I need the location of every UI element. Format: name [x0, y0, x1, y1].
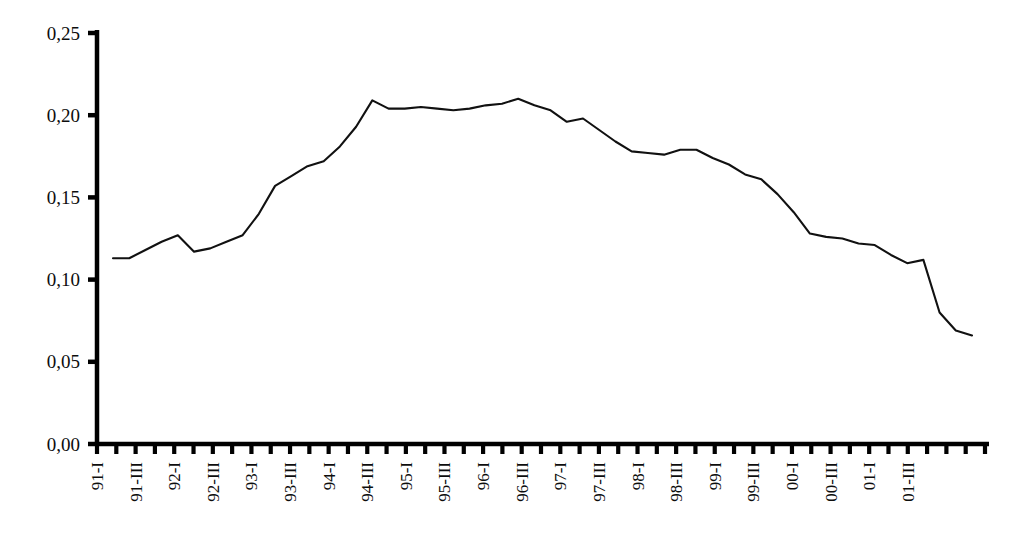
- y-tick-label: 0,05: [47, 351, 80, 372]
- x-tick-label-group: 91-I91-III92-I92-III93-I93-III94-I94-III…: [88, 462, 918, 502]
- chart-container: 0,000,050,100,150,200,25 91-I91-III92-I9…: [0, 0, 1026, 544]
- x-tick-label: 91-I: [88, 462, 107, 491]
- data-line-series-1: [113, 99, 972, 336]
- x-tick-label: 97-I: [551, 462, 570, 491]
- x-tick-label: 94-III: [358, 462, 377, 502]
- x-tick-label: 01-I: [860, 462, 879, 491]
- x-tick-label: 97-III: [590, 462, 609, 502]
- y-tick-label: 0,10: [47, 269, 80, 290]
- x-tick-group: [97, 444, 985, 454]
- x-tick-label: 93-I: [242, 462, 261, 491]
- x-tick-label: 93-III: [281, 462, 300, 502]
- x-tick-label: 92-I: [165, 462, 184, 491]
- x-tick-label: 91-III: [127, 462, 146, 502]
- x-tick-label: 96-III: [513, 462, 532, 502]
- line-chart: 0,000,050,100,150,200,25 91-I91-III92-I9…: [0, 0, 1026, 544]
- y-tick-label: 0,00: [47, 434, 80, 455]
- y-tick-label: 0,25: [47, 23, 80, 44]
- x-tick-label: 00-III: [822, 462, 841, 502]
- x-tick-label: 99-III: [744, 462, 763, 502]
- x-tick-label: 01-III: [899, 462, 918, 502]
- x-tick-label: 95-III: [435, 462, 454, 502]
- x-tick-label: 98-I: [629, 462, 648, 491]
- x-tick-label: 95-I: [397, 462, 416, 491]
- x-tick-label: 98-III: [667, 462, 686, 502]
- y-tick-label-group: 0,000,050,100,150,200,25: [47, 23, 80, 455]
- x-tick-label: 99-I: [706, 462, 725, 491]
- y-tick-label: 0,15: [47, 187, 80, 208]
- x-tick-label: 92-III: [204, 462, 223, 502]
- x-tick-label: 94-I: [320, 462, 339, 491]
- x-tick-label: 00-I: [783, 462, 802, 491]
- y-tick-label: 0,20: [47, 105, 80, 126]
- x-tick-label: 96-I: [474, 462, 493, 491]
